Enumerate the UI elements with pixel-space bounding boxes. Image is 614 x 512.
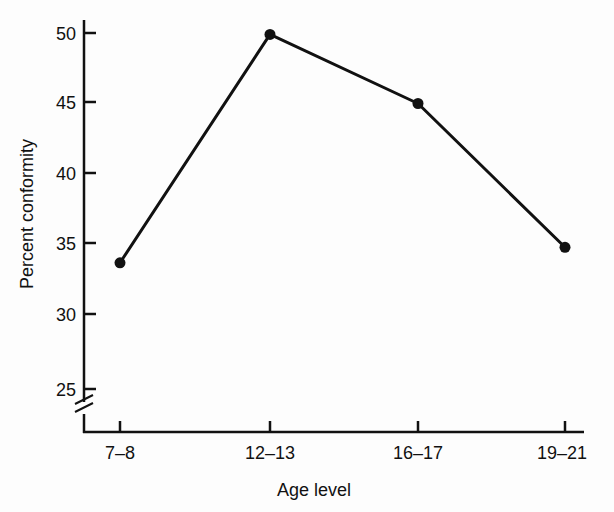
x-tick-label: 7–8 [105,443,135,463]
data-point-marker [265,29,276,40]
x-axis-title: Age level [277,480,351,500]
x-tick-label: 19–21 [537,443,587,463]
x-tick-label: 16–17 [393,443,443,463]
y-axis-title: Percent conformity [17,139,37,289]
y-tick-label: 30 [56,305,76,325]
line-chart: 50 45 40 35 30 25 7–8 12–13 16–17 19–21 … [0,0,614,512]
y-tick-label: 35 [56,234,76,254]
x-ticks [120,421,565,432]
y-ticks [84,33,96,389]
x-tick-label: 12–13 [245,443,295,463]
x-tick-labels: 7–8 12–13 16–17 19–21 [105,443,587,463]
y-tick-label: 40 [56,164,76,184]
series-markers [115,29,571,268]
series-line [120,34,565,262]
y-tick-label: 25 [56,380,76,400]
data-point-marker [115,257,126,268]
y-tick-label: 45 [56,93,76,113]
y-tick-label: 50 [56,24,76,44]
data-point-marker [413,98,424,109]
data-point-marker [560,242,571,253]
y-tick-labels: 50 45 40 35 30 25 [56,24,76,400]
